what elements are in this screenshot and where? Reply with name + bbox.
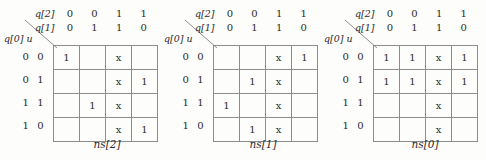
column-header-q1-3: 0 (131, 22, 156, 33)
column-header-block: q[2]0011q[1]0110 (26, 6, 156, 34)
kmap-cell[interactable] (400, 94, 426, 118)
kmap-caption-2: ns[0] (320, 138, 480, 150)
column-header-q2-0: 0 (378, 8, 403, 19)
column-header-row-q2: q[2]0011 (186, 6, 316, 20)
column-var-label-q1: q[1] (186, 22, 218, 33)
kmap-cell[interactable] (240, 46, 266, 70)
kmap-cell[interactable]: x (266, 70, 292, 94)
column-header-row-q2: q[2]0011 (346, 6, 476, 20)
kmap-row: x1 (54, 70, 158, 94)
kmap-cell[interactable] (214, 70, 240, 94)
column-header-q1-3: 0 (291, 22, 316, 33)
kmap-cell[interactable] (54, 70, 80, 94)
kmap-row: 11x1 (374, 46, 478, 70)
column-header-q2-3: 1 (451, 8, 476, 19)
kmap-grid-0: 1xx11xx1 (53, 45, 158, 142)
kmap-0: q[2]0011q[1]0110q[0] u0 00 11 11 01xx11x… (0, 0, 162, 160)
column-header-q2-1: 0 (82, 8, 107, 19)
row-label-3: 1 0 (174, 114, 210, 137)
column-header-q2-3: 1 (131, 8, 156, 19)
kmap-row: 11x1 (374, 70, 478, 94)
kmap-cell[interactable]: 1 (374, 70, 400, 94)
kmap-grid-2: 11x111x1xx (373, 45, 478, 142)
column-header-q2-0: 0 (218, 8, 243, 19)
kmap-cell[interactable] (374, 94, 400, 118)
kmap-cell[interactable] (80, 46, 106, 70)
column-header-row-q1: q[1]0110 (346, 20, 476, 34)
kmap-2: q[2]0011q[1]0110q[0] u0 00 11 11 011x111… (320, 0, 482, 160)
kmap-row: x1 (214, 46, 318, 70)
column-var-label-q1: q[1] (26, 22, 58, 33)
column-header-q2-2: 1 (267, 8, 292, 19)
kmap-cell[interactable]: x (266, 94, 292, 118)
kmap-cell[interactable]: 1 (132, 70, 158, 94)
column-header-q2-0: 0 (58, 8, 83, 19)
column-header-block: q[2]0011q[1]0110 (346, 6, 476, 34)
row-label-block: 0 00 11 11 0 (14, 45, 50, 137)
kmap-grid-1: x11x1x1x (213, 45, 318, 142)
column-header-block: q[2]0011q[1]0110 (186, 6, 316, 34)
column-header-q2-3: 1 (291, 8, 316, 19)
kmap-cell[interactable] (292, 70, 318, 94)
corner-axis-label: q[0] u (164, 33, 193, 44)
kmap-cell[interactable]: x (106, 46, 132, 70)
kmap-cell[interactable]: 1 (54, 46, 80, 70)
row-label-2: 1 1 (174, 91, 210, 114)
row-label-2: 1 1 (334, 91, 370, 114)
kmap-row: 1x (54, 46, 158, 70)
row-label-block: 0 00 11 11 0 (334, 45, 370, 137)
column-header-q1-1: 1 (242, 22, 267, 33)
row-label-1: 0 1 (14, 68, 50, 91)
kmap-cell[interactable] (452, 94, 478, 118)
kmap-cell[interactable] (80, 70, 106, 94)
row-label-1: 0 1 (174, 68, 210, 91)
column-var-label-q2: q[2] (346, 8, 378, 19)
column-header-row-q2: q[2]0011 (26, 6, 156, 20)
column-header-q1-3: 0 (451, 22, 476, 33)
corner-axis-label: q[0] u (4, 33, 33, 44)
column-header-q1-1: 1 (402, 22, 427, 33)
kmap-cell[interactable] (240, 94, 266, 118)
kmap-cell[interactable] (214, 46, 240, 70)
kmap-cell[interactable]: 1 (374, 46, 400, 70)
column-header-q1-2: 1 (427, 22, 452, 33)
kmap-cell[interactable] (132, 94, 158, 118)
kmap-cell[interactable] (54, 94, 80, 118)
kmap-cell[interactable]: 1 (240, 70, 266, 94)
row-label-3: 1 0 (334, 114, 370, 137)
row-label-2: 1 1 (14, 91, 50, 114)
column-header-q1-2: 1 (107, 22, 132, 33)
column-header-q2-1: 0 (242, 8, 267, 19)
kmap-cell[interactable]: 1 (400, 70, 426, 94)
column-header-row-q1: q[1]0110 (186, 20, 316, 34)
kmap-cell[interactable]: 1 (400, 46, 426, 70)
kmap-cell[interactable]: x (106, 70, 132, 94)
row-label-0: 0 0 (334, 45, 370, 68)
column-var-label-q2: q[2] (26, 8, 58, 19)
kmap-row: x (374, 94, 478, 118)
kmap-cell[interactable]: 1 (80, 94, 106, 118)
column-header-row-q1: q[1]0110 (26, 20, 156, 34)
kmap-cell[interactable]: 1 (292, 46, 318, 70)
kmap-row: 1x (54, 94, 158, 118)
kmap-cell[interactable]: x (426, 94, 452, 118)
kmap-cell[interactable]: 1 (452, 70, 478, 94)
row-label-block: 0 00 11 11 0 (174, 45, 210, 137)
kmap-cell[interactable]: x (106, 94, 132, 118)
kmap-caption-0: ns[2] (0, 138, 162, 150)
kmap-cell[interactable] (292, 94, 318, 118)
kmap-cell[interactable]: 1 (214, 94, 240, 118)
kmap-cell[interactable]: x (426, 70, 452, 94)
kmap-1: q[2]0011q[1]0110q[0] u0 00 11 11 0x11x1x… (160, 0, 322, 160)
column-header-q1-2: 1 (267, 22, 292, 33)
column-header-q2-1: 0 (402, 8, 427, 19)
kmap-cell[interactable] (132, 46, 158, 70)
column-header-q2-2: 1 (107, 8, 132, 19)
row-label-0: 0 0 (14, 45, 50, 68)
kmap-cell[interactable]: x (426, 46, 452, 70)
column-header-q1-0: 0 (218, 22, 243, 33)
kmap-cell[interactable]: 1 (452, 46, 478, 70)
kmap-caption-1: ns[1] (160, 138, 318, 150)
column-header-q1-1: 1 (82, 22, 107, 33)
kmap-cell[interactable]: x (266, 46, 292, 70)
